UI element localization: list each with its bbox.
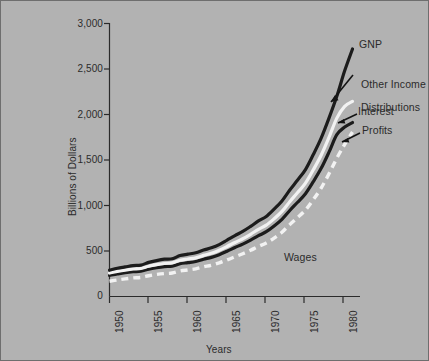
- x-tick-marks: [110, 297, 344, 304]
- annotation-other-income-line1: Other Income: [361, 78, 426, 90]
- y-tick-label-0: 0: [63, 290, 103, 301]
- y-tick-label-2000: 2,000: [63, 109, 103, 120]
- y-tick-marks: [104, 24, 110, 252]
- annotation-profits: Profits: [362, 125, 392, 136]
- x-tick-label-1955: 1955: [153, 310, 164, 333]
- x-tick-label-1975: 1975: [309, 310, 320, 333]
- series-layer: [110, 49, 353, 281]
- x-tick-label-1965: 1965: [231, 310, 242, 333]
- annotation-gnp: GNP: [359, 39, 382, 50]
- x-tick-label-1950: 1950: [114, 310, 125, 333]
- series-line-gnp: [110, 49, 353, 270]
- x-axis-title: Years: [206, 344, 232, 355]
- annotation-interest: Interest: [358, 106, 394, 117]
- y-axis-title: Billions of Dollars: [67, 137, 78, 216]
- series-line-other-income-distributions: [110, 101, 353, 273]
- y-tick-label-500: 500: [63, 245, 103, 256]
- x-tick-label-1960: 1960: [192, 310, 203, 333]
- x-tick-label-1970: 1970: [270, 310, 281, 333]
- annotation-wages: Wages: [284, 252, 317, 263]
- chart-plot-area: [1, 1, 429, 361]
- chart-figure: 3,000 2,500 2,000 1,500 1,000 500 0 Bill…: [0, 0, 429, 361]
- y-tick-label-3000: 3,000: [63, 18, 103, 29]
- x-tick-label-1980: 1980: [348, 310, 359, 333]
- y-tick-label-2500: 2,500: [63, 63, 103, 74]
